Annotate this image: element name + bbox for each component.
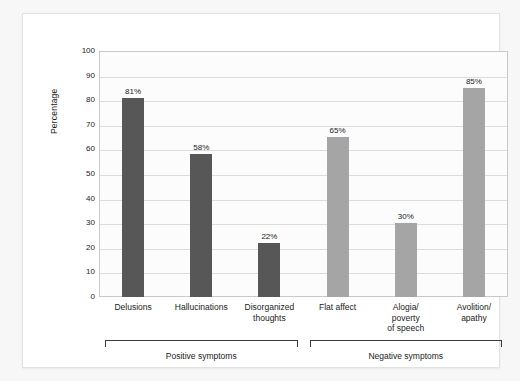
plot-area [99, 51, 508, 297]
y-axis-tick-label: 40 [75, 195, 95, 203]
gridline [100, 200, 507, 201]
group-bracket-label: Negative symptoms [310, 352, 503, 361]
y-axis-title: Percentage [49, 120, 59, 134]
gridline [100, 77, 507, 78]
gridline [100, 150, 507, 151]
y-axis-tick-label: 0 [75, 293, 95, 301]
gridline [100, 249, 507, 250]
y-axis-tick-label: 80 [75, 96, 95, 104]
y-axis-tick-label: 20 [75, 244, 95, 252]
gridline [100, 224, 507, 225]
group-bracket [310, 340, 503, 347]
category-label: Avolition/apathy [432, 302, 516, 323]
y-axis-tick-label: 60 [75, 145, 95, 153]
group-bracket-label: Positive symptoms [105, 352, 298, 361]
gridline [100, 273, 507, 274]
group-bracket [105, 340, 298, 347]
y-axis-tick-label: 90 [75, 72, 95, 80]
gridline [100, 101, 507, 102]
figure-card: Percentage 1009080706050403020100 81%58%… [22, 13, 500, 368]
y-axis-tick-label: 100 [75, 47, 95, 55]
gridline [100, 175, 507, 176]
chart-page: Percentage 1009080706050403020100 81%58%… [0, 0, 520, 381]
y-axis-tick-label: 50 [75, 170, 95, 178]
y-axis-tick-labels: 1009080706050403020100 [73, 51, 95, 297]
y-axis-tick-label: 70 [75, 121, 95, 129]
y-axis-tick-label: 30 [75, 219, 95, 227]
y-axis-tick-label: 10 [75, 268, 95, 276]
gridline [100, 126, 507, 127]
